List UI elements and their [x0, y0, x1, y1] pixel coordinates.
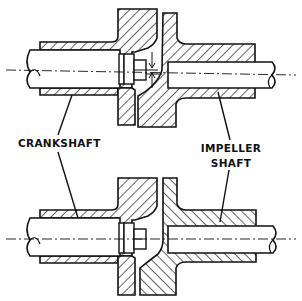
crankshaft-top [27, 50, 120, 88]
impeller-shaft-top [168, 62, 275, 88]
washer-top [119, 54, 124, 84]
impeller-shaft-bottom [168, 226, 276, 253]
bottom-assembly [6, 178, 296, 295]
leader-crankshaft-top [58, 95, 72, 135]
crankshaft-label: CRANKSHAFT [18, 136, 101, 151]
impeller-shaft-label: IMPELLER SHAFT [199, 141, 263, 171]
leader-impeller-top [218, 92, 230, 140]
impeller-label-line2: SHAFT [199, 156, 263, 171]
top-assembly [6, 9, 296, 127]
crankshaft-bottom [27, 218, 120, 256]
impeller-label-line1: IMPELLER [199, 141, 263, 156]
leader-crankshaft-bottom [58, 152, 78, 218]
washer-bottom [119, 223, 124, 253]
crankshaft-flange-bottom-lip [118, 88, 135, 125]
